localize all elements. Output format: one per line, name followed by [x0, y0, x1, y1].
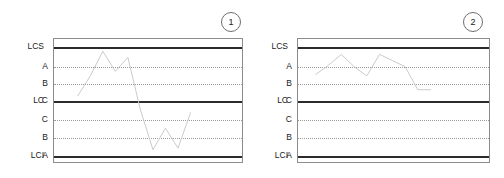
series-line-1 — [78, 51, 191, 149]
zone-label-a-upper-1: A — [30, 62, 48, 71]
panel-number-badge-1: 1 — [221, 12, 241, 32]
control-chart-panel-2: 2 LCS LC LCI A B C C B A — [252, 0, 504, 178]
series-plot-1 — [54, 39, 242, 162]
zone-label-a-lower-2: A — [274, 151, 292, 160]
zone-label-b-upper-1: B — [30, 79, 48, 88]
zone-label-c-center-2: C — [274, 96, 292, 105]
zone-label-c-center-1: C — [30, 96, 48, 105]
zone-label-b-lower-2: B — [274, 133, 292, 142]
axis-label-lcs-1: LCS — [8, 42, 44, 51]
zone-label-b-lower-1: B — [30, 133, 48, 142]
panel-number-label: 1 — [228, 18, 233, 27]
zone-label-c-lower-1: C — [30, 115, 48, 124]
zone-label-a-upper-2: A — [274, 62, 292, 71]
panel-number-badge-2: 2 — [463, 12, 483, 32]
control-chart-panel-1: 1 LCS LC LCI A B C C B A — [0, 0, 252, 178]
axis-label-lcs-2: LCS — [252, 42, 288, 51]
zone-label-c-lower-2: C — [274, 115, 292, 124]
control-chart-figure: 1 LCS LC LCI A B C C B A 2 LCS — [0, 0, 504, 178]
series-line-2 — [316, 54, 431, 89]
zone-label-b-upper-2: B — [274, 79, 292, 88]
panel-number-label: 2 — [470, 18, 475, 27]
plot-area-2 — [297, 38, 490, 163]
series-plot-2 — [298, 39, 489, 162]
zone-label-a-lower-1: A — [30, 151, 48, 160]
plot-area-1 — [53, 38, 243, 163]
